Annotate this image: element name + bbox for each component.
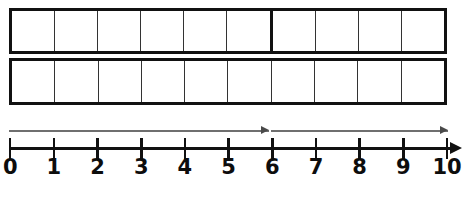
number-line-label-10: 10 — [432, 156, 461, 178]
number-line-arrow-icon — [450, 142, 462, 154]
diagram-canvas: 012345678910 — [0, 0, 470, 203]
number-line-label-3: 3 — [134, 156, 149, 178]
number-line-label-2: 2 — [90, 156, 105, 178]
number-line-label-0: 0 — [3, 156, 18, 178]
number-line-label-1: 1 — [47, 156, 62, 178]
number-line-label-9: 9 — [396, 156, 411, 178]
number-line-label-5: 5 — [221, 156, 236, 178]
number-line: 012345678910 — [0, 0, 470, 203]
number-line-label-6: 6 — [265, 156, 280, 178]
number-line-label-4: 4 — [178, 156, 193, 178]
number-line-label-7: 7 — [309, 156, 324, 178]
number-line-label-8: 8 — [352, 156, 367, 178]
number-line-axis — [9, 147, 453, 150]
